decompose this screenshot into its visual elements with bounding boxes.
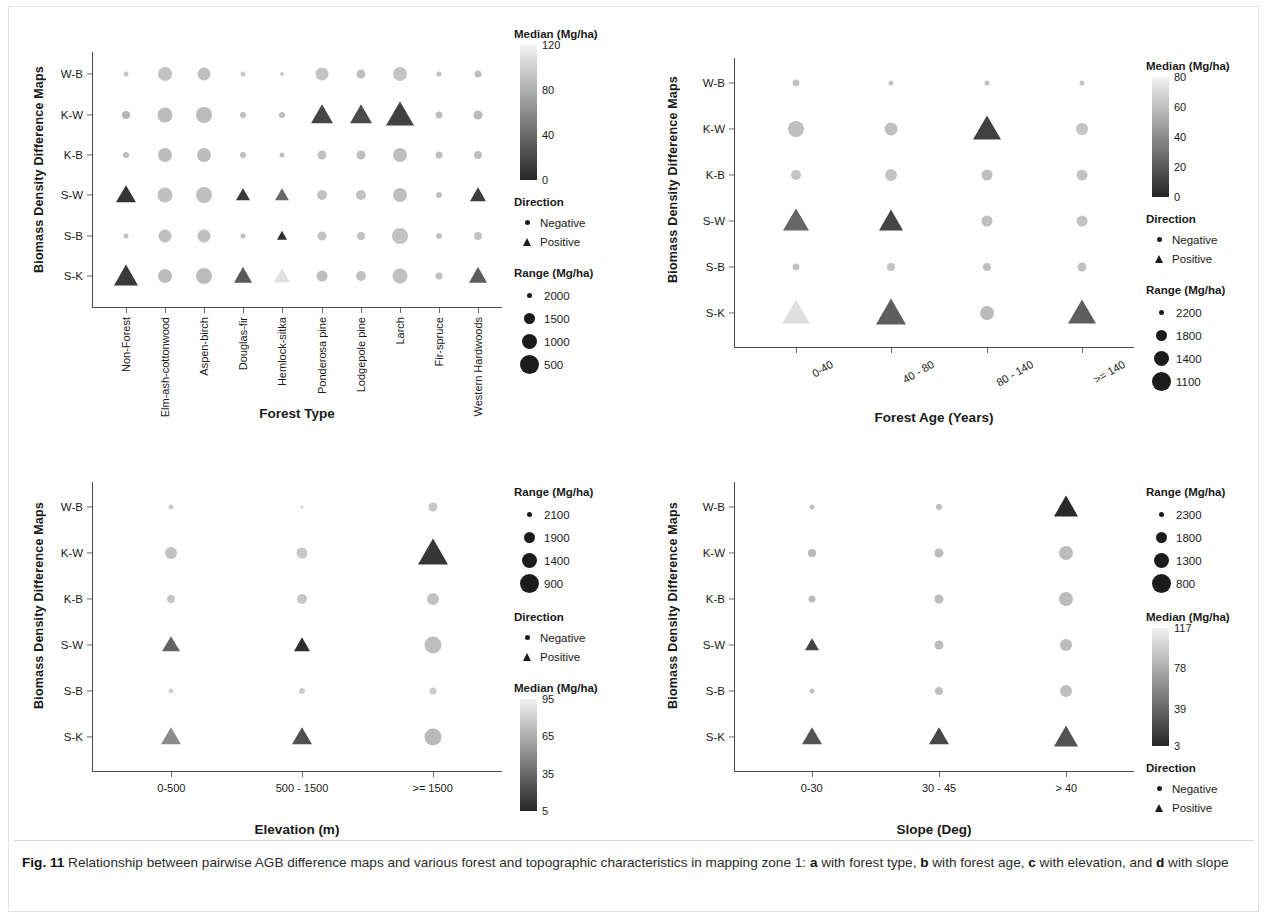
caption-tag-b: b xyxy=(920,855,928,870)
legend-median-tick: 117 xyxy=(1174,622,1192,634)
caption-text-b: with forest age, xyxy=(929,855,1029,870)
data-marker-triangle xyxy=(1068,299,1096,323)
range-size-dot-icon xyxy=(514,512,544,517)
data-marker-circle xyxy=(240,112,246,118)
data-marker-circle xyxy=(474,151,482,159)
range-size-dot-icon xyxy=(514,355,544,374)
panel-b-forest-age: Biomass Density Difference Maps W-BK-WK-… xyxy=(648,18,1260,428)
data-marker-circle xyxy=(317,231,326,240)
y-tick-mark xyxy=(87,506,92,507)
legend-median-gradient-bar xyxy=(1152,77,1169,197)
legend-range-label: 1800 xyxy=(1176,330,1202,342)
legend-range-item: 1400 xyxy=(514,549,642,572)
legend-range-title: Range (Mg/ha) xyxy=(1146,284,1266,296)
data-marker-circle xyxy=(887,263,895,271)
data-marker-triangle xyxy=(469,267,487,283)
legend-median-tick: 60 xyxy=(1174,101,1186,113)
data-marker-triangle xyxy=(470,187,486,201)
panel-a-legend: Median (Mg/ha)12080400DirectionNegativeP… xyxy=(514,28,644,392)
data-marker-triangle xyxy=(805,638,819,650)
data-marker-triangle xyxy=(1054,725,1078,746)
data-marker-circle xyxy=(241,72,246,77)
data-marker-circle xyxy=(935,687,943,695)
negative-dot-icon xyxy=(514,635,540,640)
caption-text-c: with elevation, and xyxy=(1036,855,1156,870)
legend-direction-label: Positive xyxy=(1172,253,1212,265)
y-tick-mark xyxy=(729,552,734,553)
panel-d-slope: Biomass Density Difference Maps W-BK-WK-… xyxy=(648,444,1260,844)
data-marker-circle xyxy=(393,188,407,202)
range-size-dot-icon xyxy=(514,293,544,298)
legend-range-label: 1100 xyxy=(1176,376,1201,388)
positive-triangle-icon xyxy=(1146,255,1172,263)
x-tick-label: >= 140 xyxy=(1092,358,1128,386)
range-size-dot-icon xyxy=(1146,330,1176,341)
data-marker-circle xyxy=(123,233,128,238)
x-tick-label: 40 - 80 xyxy=(901,358,937,386)
x-tick-mark xyxy=(1066,772,1067,777)
legend-direction-positive: Positive xyxy=(514,232,644,251)
data-marker-triangle xyxy=(350,104,372,123)
data-marker-circle xyxy=(280,72,284,76)
panel-b-y-axis-title: Biomass Density Difference Maps xyxy=(666,40,680,320)
x-tick-label: Douglas-fir xyxy=(237,317,249,370)
y-tick-mark xyxy=(729,644,734,645)
data-marker-circle xyxy=(279,112,285,118)
data-marker-circle xyxy=(169,689,174,694)
negative-dot-icon xyxy=(514,220,540,225)
legend-range-label: 1900 xyxy=(544,532,570,544)
y-tick-mark xyxy=(87,235,92,236)
data-marker-circle xyxy=(436,272,443,279)
legend-median-tick: 35 xyxy=(542,768,554,780)
data-marker-triangle xyxy=(929,727,949,744)
x-tick-mark xyxy=(361,308,362,313)
data-marker-circle xyxy=(157,107,172,122)
y-tick-mark xyxy=(87,195,92,196)
x-tick-label: Ponderosa pine xyxy=(316,317,328,394)
positive-triangle-icon xyxy=(1146,804,1172,812)
data-marker-triangle xyxy=(277,230,287,239)
data-marker-circle xyxy=(315,68,328,81)
data-marker-circle xyxy=(980,306,994,320)
data-marker-circle xyxy=(123,152,129,158)
legend-range-item: 2100 xyxy=(514,503,642,526)
legend-range-item: 2300 xyxy=(1146,503,1267,526)
figure-caption: Fig. 11 Relationship between pairwise AG… xyxy=(22,852,1250,874)
range-size-dot-icon xyxy=(1146,553,1176,568)
panel-c-y-spine xyxy=(92,482,93,772)
panel-c-x-spine xyxy=(92,771,502,772)
data-marker-circle xyxy=(1059,592,1073,606)
x-tick-mark xyxy=(987,348,988,353)
legend-direction-title: Direction xyxy=(514,196,644,208)
legend-range-label: 900 xyxy=(544,578,563,590)
data-marker-circle xyxy=(935,549,944,558)
panel-b-y-spine xyxy=(734,58,735,348)
data-marker-triangle xyxy=(116,185,136,202)
data-marker-triangle xyxy=(275,188,289,200)
legend-median-title: Median (Mg/ha) xyxy=(514,28,644,40)
legend-direction-label: Negative xyxy=(540,217,585,229)
range-size-dot-icon xyxy=(514,574,544,593)
legend-range-item: 1300 xyxy=(1146,549,1267,572)
legend-range-label: 500 xyxy=(544,359,563,371)
data-marker-circle xyxy=(122,111,130,119)
data-marker-circle xyxy=(792,80,799,87)
legend-median-tick: 120 xyxy=(542,39,560,51)
legend-median-tick: 0 xyxy=(1174,191,1180,203)
data-marker-circle xyxy=(197,148,211,162)
data-marker-circle xyxy=(984,81,989,86)
data-marker-circle xyxy=(809,505,814,510)
legend-median-tick: 5 xyxy=(542,805,548,817)
data-marker-circle xyxy=(356,70,365,79)
legend-range-block: Range (Mg/ha)2200180014001100 xyxy=(1146,284,1266,393)
figure-container: Biomass Density Difference Maps W-BK-WK-… xyxy=(0,0,1267,916)
legend-direction-negative: Negative xyxy=(1146,779,1267,798)
x-tick-label: Hemlock-sitka xyxy=(276,317,288,386)
data-marker-circle xyxy=(475,71,482,78)
legend-direction-label: Positive xyxy=(540,236,580,248)
legend-median-tick: 65 xyxy=(542,730,554,742)
data-marker-circle xyxy=(474,232,482,240)
legend-median-gradient-bar xyxy=(1152,628,1169,746)
data-marker-circle xyxy=(240,152,246,158)
data-marker-circle xyxy=(1078,263,1087,272)
